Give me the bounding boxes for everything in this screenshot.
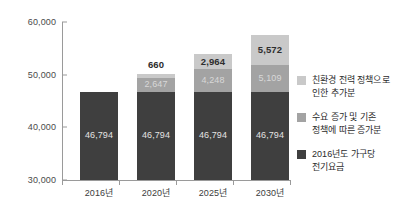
- bar-segment-green-policy[interactable]: 2,964: [194, 54, 232, 70]
- y-tick-label: 50,000: [28, 70, 62, 80]
- bar-value-label: 46,794: [142, 131, 170, 140]
- legend-label-line2: 인한 추가분: [312, 88, 355, 98]
- bar-2016[interactable]: 46,794: [80, 92, 118, 181]
- bar-value-label: 46,794: [85, 131, 113, 140]
- legend-label-line2: 정책에 따른 증가분: [312, 125, 382, 135]
- bar-segment-base[interactable]: 46,794: [137, 92, 175, 181]
- bar-segment-green-policy[interactable]: 5,572: [251, 35, 289, 64]
- bar-top-value-label: 660: [148, 59, 164, 70]
- legend-label-green-policy: 친환경 전력 정책으로 인한 추가분: [312, 74, 390, 100]
- x-tick-mark: [290, 180, 291, 185]
- legend-label-line1: 수요 증가 및 기존: [312, 112, 376, 122]
- bar-segment-base[interactable]: 46,794: [251, 92, 289, 181]
- x-tick-mark: [119, 180, 120, 185]
- x-axis-label-2025: 2025년: [199, 186, 228, 199]
- x-axis-label-2030: 2030년: [256, 186, 285, 199]
- y-tick-mark: [62, 22, 67, 23]
- legend-label-demand-growth: 수요 증가 및 기존 정책에 따른 증가분: [312, 111, 382, 137]
- legend-label-line1: 친환경 전력 정책으로: [312, 75, 390, 85]
- bar-value-label: 2,964: [201, 57, 225, 67]
- bar-segment-demand-growth[interactable]: 4,248: [194, 69, 232, 91]
- bar-segment-demand-growth[interactable]: 2,647: [137, 78, 175, 92]
- bar-value-label: 5,572: [258, 45, 282, 55]
- legend-swatch-icon: [297, 113, 306, 122]
- legend-swatch-icon: [297, 76, 306, 85]
- y-tick-mark: [62, 74, 67, 75]
- bar-2020[interactable]: 660 2,647 46,794: [137, 74, 175, 180]
- plot-area: 60,000 50,000 40,000 30,000 46,794 660 2…: [62, 22, 290, 180]
- legend-item-green-policy[interactable]: 친환경 전력 정책으로 인한 추가분: [297, 74, 409, 100]
- bar-segment-base[interactable]: 46,794: [194, 92, 232, 181]
- y-tick-mark: [62, 127, 67, 128]
- bar-2025[interactable]: 2,964 4,248 46,794: [194, 54, 232, 180]
- y-tick-label: 30,000: [28, 175, 62, 185]
- chart-legend: 친환경 전력 정책으로 인한 추가분 수요 증가 및 기존 정책에 따른 증가분…: [297, 74, 409, 185]
- x-axis-label-2020: 2020년: [142, 186, 171, 199]
- bar-segment-demand-growth[interactable]: 5,109: [251, 65, 289, 92]
- legend-swatch-icon: [297, 150, 306, 159]
- y-tick-label: 60,000: [28, 17, 62, 27]
- bar-value-label: 5,109: [258, 74, 281, 83]
- y-tick-label: 40,000: [28, 122, 62, 132]
- x-tick-mark: [176, 180, 177, 185]
- x-tick-mark: [62, 180, 63, 185]
- legend-item-demand-growth[interactable]: 수요 증가 및 기존 정책에 따른 증가분: [297, 111, 409, 137]
- bar-value-label: 46,794: [199, 131, 227, 140]
- legend-label-base-bill: 2016년도 가구당 전기요금: [312, 148, 375, 174]
- stacked-bar-chart: 60,000 50,000 40,000 30,000 46,794 660 2…: [0, 0, 411, 218]
- bar-value-label: 4,248: [201, 76, 224, 85]
- legend-item-base-bill[interactable]: 2016년도 가구당 전기요금: [297, 148, 409, 174]
- bar-value-label: 2,647: [144, 80, 167, 89]
- x-tick-mark: [233, 180, 234, 185]
- bar-2030[interactable]: 5,572 5,109 46,794: [251, 35, 289, 180]
- bar-value-label: 46,794: [256, 131, 284, 140]
- bar-segment-base[interactable]: 46,794: [80, 92, 118, 181]
- legend-label-line1: 2016년도 가구당: [312, 149, 375, 159]
- x-axis-label-2016: 2016년: [85, 186, 114, 199]
- legend-label-line2: 전기요금: [312, 162, 344, 172]
